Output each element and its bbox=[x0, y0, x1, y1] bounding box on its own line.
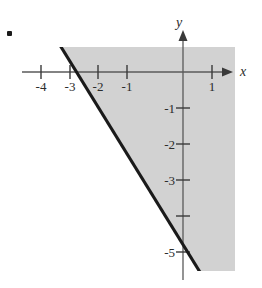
y-tick-label--3: -3 bbox=[157, 174, 175, 187]
y-tick-label--2: -2 bbox=[157, 138, 175, 151]
inequality-graph-figure: -4 -3 -2 -1 1 -1 -2 -3 -5 x y bbox=[0, 0, 262, 288]
x-tick-label--4: -4 bbox=[36, 80, 47, 93]
x-axis-label: x bbox=[240, 65, 246, 79]
x-tick-label--3: -3 bbox=[65, 80, 76, 93]
y-tick-label--5: -5 bbox=[157, 246, 175, 259]
plot-canvas bbox=[0, 0, 262, 288]
solution-region-shading bbox=[49, 47, 235, 271]
y-tick-label--1: -1 bbox=[157, 102, 175, 115]
x-tick-label-1: 1 bbox=[209, 80, 216, 93]
x-tick-label--2: -2 bbox=[93, 80, 104, 93]
y-axis-label: y bbox=[176, 16, 182, 30]
x-tick-label--1: -1 bbox=[122, 80, 133, 93]
